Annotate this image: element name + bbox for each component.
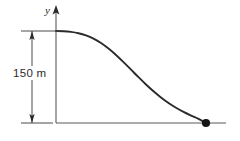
figure-canvas: y 150 m — [0, 0, 240, 141]
dot-marker-icon — [202, 119, 210, 127]
axes-group: y — [44, 4, 226, 123]
trajectory-curve — [56, 31, 206, 123]
end-point-marker-group — [202, 119, 210, 127]
dimension-label: 150 m — [13, 67, 46, 79]
trajectory-curve-group — [56, 31, 206, 123]
height-dimension-group: 150 m — [13, 31, 60, 123]
y-axis-label: y — [44, 4, 50, 16]
physics-trajectory-figure: y 150 m — [0, 0, 240, 141]
